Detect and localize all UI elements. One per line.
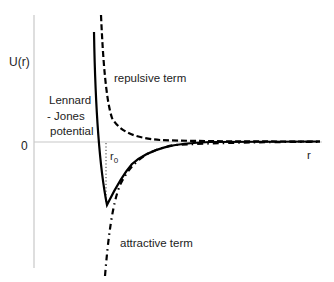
lj-label-line2: - Jones	[47, 109, 85, 123]
repulsive-term-label: repulsive term	[114, 71, 186, 85]
attractive-term-curve	[105, 142, 320, 276]
lennard-jones-curve	[94, 32, 320, 205]
lj-label-line3: potential	[50, 124, 93, 138]
r0-label-sub: 0	[114, 156, 118, 165]
zero-label: 0	[21, 139, 28, 153]
attractive-term-label: attractive term	[120, 236, 193, 250]
lj-label-line1: Lennard	[49, 93, 91, 107]
y-axis-label: U(r)	[9, 55, 30, 69]
x-axis-label: r	[307, 148, 311, 162]
r0-label: r0	[110, 149, 118, 168]
